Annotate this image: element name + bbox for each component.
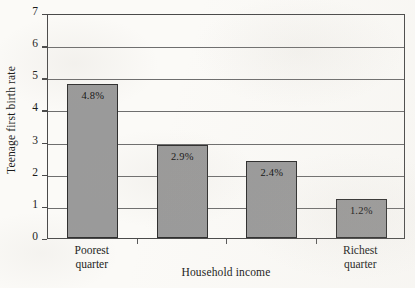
y-tick-label: 5 bbox=[18, 70, 38, 82]
y-tick-label: 7 bbox=[18, 6, 38, 18]
y-tick-label: 2 bbox=[18, 167, 38, 179]
x-category-label-line1: Poorest bbox=[47, 243, 137, 257]
y-tick-label: 3 bbox=[18, 135, 38, 147]
y-tick-mark bbox=[42, 239, 47, 240]
x-category-label-line2: quarter bbox=[315, 257, 405, 271]
bar-value-label: 2.4% bbox=[247, 167, 296, 178]
bar-value-label: 2.9% bbox=[158, 151, 207, 162]
bar: 1.2% bbox=[336, 199, 387, 238]
x-category-label: Richestquarter bbox=[315, 243, 405, 271]
x-category-label: Poorestquarter bbox=[47, 243, 137, 271]
y-tick-label: 0 bbox=[18, 231, 38, 243]
x-tick-mark bbox=[226, 239, 227, 244]
bar: 2.4% bbox=[246, 161, 297, 238]
y-axis-ticks: 01234567 bbox=[0, 14, 47, 239]
y-tick-label: 1 bbox=[18, 199, 38, 211]
bar-value-label: 1.2% bbox=[337, 205, 386, 216]
plot-area: 4.8%2.9%2.4%1.2% bbox=[47, 14, 405, 239]
chart-page: Teenage first birth rate 01234567 4.8%2.… bbox=[0, 0, 415, 288]
x-category-label-line2: quarter bbox=[47, 257, 137, 271]
bar: 4.8% bbox=[67, 84, 118, 238]
bar: 2.9% bbox=[157, 145, 208, 238]
bar-value-label: 4.8% bbox=[68, 90, 117, 101]
y-tick-label: 6 bbox=[18, 38, 38, 50]
bar-series: 4.8%2.9%2.4%1.2% bbox=[48, 15, 404, 238]
x-category-label-line1: Richest bbox=[315, 243, 405, 257]
y-tick-label: 4 bbox=[18, 102, 38, 114]
